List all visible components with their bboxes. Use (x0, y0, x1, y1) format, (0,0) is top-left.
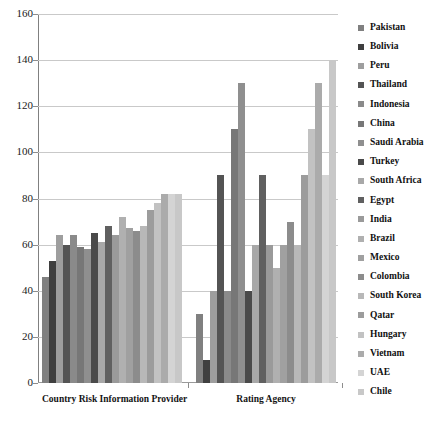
legend-swatch-icon (358, 351, 364, 357)
y-tick-label-40: 40 (22, 285, 33, 296)
legend-item-south-africa[interactable]: South Africa (358, 172, 446, 191)
y-tick-mark-160 (33, 14, 38, 15)
legend-swatch-icon (358, 159, 364, 165)
y-tick-label-160: 160 (17, 8, 34, 19)
legend-swatch-icon (358, 312, 364, 318)
y-tick-mark-40 (33, 291, 38, 292)
bar-colombia-0 (133, 231, 140, 383)
bar-brazil-1 (273, 268, 280, 383)
bar-colombia-1 (287, 222, 294, 383)
legend-item-chile[interactable]: Chile (358, 383, 446, 402)
legend-item-indonesia[interactable]: Indonesia (358, 95, 446, 114)
legend-item-bolivia[interactable]: Bolivia (358, 37, 446, 56)
legend-label: Saudi Arabia (370, 138, 424, 148)
bar-qatar-1 (301, 175, 308, 383)
y-tick-label-80: 80 (22, 193, 33, 204)
x-axis-tick-0 (188, 383, 189, 388)
legend-item-turkey[interactable]: Turkey (358, 152, 446, 171)
bar-qatar-0 (147, 210, 154, 383)
legend: PakistanBoliviaPeruThailandIndonesiaChin… (358, 18, 446, 402)
bar-uae-0 (168, 194, 175, 383)
y-axis-labels: 160140120100806040200 (0, 0, 33, 425)
legend-label: Qatar (370, 311, 394, 321)
y-tick-label-140: 140 (17, 54, 34, 65)
bar-vietnam-0 (161, 194, 168, 383)
legend-label: Pakistan (370, 23, 405, 33)
bar-south-korea-1 (294, 245, 301, 383)
bar-egypt-1 (259, 175, 266, 383)
legend-swatch-icon (358, 63, 364, 69)
bar-peru-0 (56, 235, 63, 383)
bar-hungary-0 (154, 203, 161, 383)
legend-label: South Korea (370, 291, 421, 301)
legend-item-saudi-arabia[interactable]: Saudi Arabia (358, 133, 446, 152)
legend-swatch-icon (358, 255, 364, 261)
bar-hungary-1 (308, 129, 315, 383)
legend-item-thailand[interactable]: Thailand (358, 76, 446, 95)
legend-item-peru[interactable]: Peru (358, 56, 446, 75)
legend-item-china[interactable]: China (358, 114, 446, 133)
y-tick-mark-20 (33, 337, 38, 338)
bar-saudi-arabia-1 (238, 83, 245, 383)
legend-label: Vietnam (370, 349, 404, 359)
bar-turkey-1 (245, 291, 252, 383)
group-label-country-risk-information-provider: Country Risk Information Provider (42, 394, 182, 404)
bar-saudi-arabia-0 (84, 249, 91, 383)
bar-egypt-0 (105, 226, 112, 383)
legend-item-egypt[interactable]: Egypt (358, 191, 446, 210)
y-tick-mark-140 (33, 60, 38, 61)
bar-mexico-1 (280, 245, 287, 383)
legend-swatch-icon (358, 44, 364, 50)
legend-item-south-korea[interactable]: South Korea (358, 287, 446, 306)
legend-label: Brazil (370, 234, 395, 244)
legend-item-colombia[interactable]: Colombia (358, 267, 446, 286)
bar-chile-1 (329, 60, 336, 383)
legend-label: China (370, 119, 395, 129)
legend-label: Indonesia (370, 100, 410, 110)
legend-item-vietnam[interactable]: Vietnam (358, 344, 446, 363)
legend-swatch-icon (358, 332, 364, 338)
legend-item-hungary[interactable]: Hungary (358, 325, 446, 344)
y-tick-mark-120 (33, 106, 38, 107)
bar-vietnam-1 (315, 83, 322, 383)
legend-swatch-icon (358, 370, 364, 376)
bar-chile-0 (175, 194, 182, 383)
legend-label: Bolivia (370, 42, 399, 52)
legend-label: South Africa (370, 176, 421, 186)
bar-china-0 (77, 247, 84, 383)
legend-swatch-icon (358, 82, 364, 88)
legend-item-brazil[interactable]: Brazil (358, 229, 446, 248)
bar-south-africa-1 (252, 245, 259, 383)
bar-china-1 (231, 129, 238, 383)
legend-item-uae[interactable]: UAE (358, 363, 446, 382)
bar-indonesia-1 (224, 291, 231, 383)
legend-swatch-icon (358, 236, 364, 242)
legend-swatch-icon (358, 121, 364, 127)
y-tick-label-120: 120 (17, 100, 34, 111)
legend-item-pakistan[interactable]: Pakistan (358, 18, 446, 37)
bar-brazil-0 (119, 217, 126, 383)
bar-group-1 (196, 14, 336, 383)
legend-swatch-icon (358, 178, 364, 184)
legend-label: Colombia (370, 272, 410, 282)
bar-south-korea-0 (140, 226, 147, 383)
bar-pakistan-0 (42, 277, 49, 383)
legend-item-mexico[interactable]: Mexico (358, 248, 446, 267)
bar-bolivia-0 (49, 261, 56, 383)
bar-pakistan-1 (196, 314, 203, 383)
legend-swatch-icon (358, 293, 364, 299)
legend-swatch-icon (358, 101, 364, 107)
y-tick-label-100: 100 (17, 146, 34, 157)
legend-item-india[interactable]: India (358, 210, 446, 229)
y-tick-mark-0 (33, 383, 38, 384)
legend-label: Egypt (370, 196, 394, 206)
bar-turkey-0 (91, 233, 98, 383)
legend-swatch-icon (358, 25, 364, 31)
legend-label: India (370, 215, 392, 225)
legend-swatch-icon (358, 389, 364, 395)
legend-item-qatar[interactable]: Qatar (358, 306, 446, 325)
bar-south-africa-0 (98, 242, 105, 383)
legend-label: Hungary (370, 330, 406, 340)
bar-bolivia-1 (203, 360, 210, 383)
bar-uae-1 (322, 175, 329, 383)
